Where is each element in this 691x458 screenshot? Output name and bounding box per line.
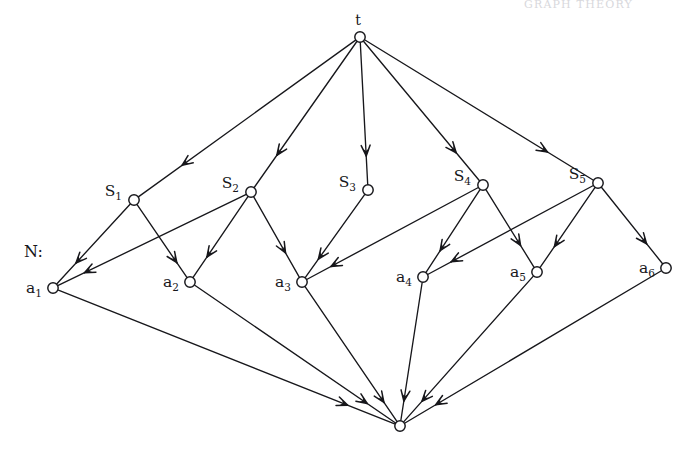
node-label-base-S1: S [105,182,116,200]
edge-t-to-S1 [139,40,356,196]
node-label-S4: S4 [454,167,472,187]
edge-S5-to-a4 [428,186,593,275]
node-label-S3: S3 [339,173,356,193]
edge-S2-to-a1 [58,195,246,286]
node-layer [48,32,671,431]
edge-S2-to-a3 [254,197,299,277]
node-sink[interactable] [395,421,405,431]
node-a4[interactable] [418,272,428,282]
node-label-base-t: t [355,12,361,28]
node-label-subscript-a3: 3 [284,281,291,293]
node-label-subscript-S5: 5 [579,173,586,185]
node-a1[interactable] [48,283,58,293]
network-caption-label: N: [24,242,43,261]
node-label-S5: S5 [569,165,586,185]
node-label-base-a1: a [26,279,35,297]
node-S2[interactable] [246,187,256,197]
edge-a6-to-sink [405,271,661,423]
node-label-subscript-a2: 2 [172,281,179,293]
node-label-base-S3: S [339,173,350,191]
node-label-a4: a4 [396,268,412,288]
node-label-a1: a1 [26,279,42,299]
node-label-base-a4: a [396,268,405,286]
edge-S5-to-a6 [602,188,663,264]
node-label-t: t [355,12,361,28]
node-label-a3: a3 [275,273,291,293]
node-label-subscript-S2: 2 [232,182,239,194]
edge-a2-to-sink [195,285,395,422]
edge-t-to-S4 [364,41,480,180]
node-label-S1: S1 [105,182,122,202]
node-label-subscript-S1: 1 [115,190,122,202]
page-header-text: GRAPH THEORY [524,0,633,11]
node-label-subscript-a5: 5 [519,271,526,283]
edge-a3-to-sink [305,287,396,421]
node-label-subscript-S4: 4 [464,175,471,187]
edge-a1-to-sink [58,290,394,424]
node-a2[interactable] [185,277,195,287]
node-a3[interactable] [297,277,307,287]
node-label-a5: a5 [510,263,526,283]
node-label-S2: S2 [222,174,239,194]
node-label-subscript-S3: 3 [349,181,356,193]
edge-a4-to-sink [401,283,422,421]
edge-S1-to-a2 [137,205,186,277]
node-S1[interactable] [129,195,139,205]
edge-t-to-S2 [254,42,356,188]
node-label-base-a5: a [510,263,519,281]
node-label-base-a6: a [639,259,648,277]
node-a5[interactable] [532,267,542,277]
node-S5[interactable] [593,178,603,188]
edge-a5-to-sink [404,276,533,421]
node-label-subscript-a6: 6 [648,267,655,279]
edge-S4-to-a3 [307,188,478,280]
edge-S2-to-a2 [193,197,248,277]
edge-S4-to-a5 [486,190,534,267]
node-label-a2: a2 [163,273,179,293]
edge-layer [57,40,662,424]
node-label-base-S2: S [222,174,233,192]
node-S4[interactable] [478,180,488,190]
node-S3[interactable] [363,185,373,195]
node-label-base-S4: S [454,167,465,185]
node-label-base-a3: a [275,273,284,291]
node-label-subscript-a1: 1 [35,287,42,299]
edge-t-to-S5 [365,40,593,180]
node-a6[interactable] [661,263,671,273]
node-label-base-S5: S [569,165,580,183]
node-label-subscript-a4: 4 [405,276,412,288]
node-label-a6: a6 [639,259,655,279]
graph-canvas: tS1S2S3S4S5a1a2a3a4a5a6N: [0,0,691,458]
edge-t-to-S3 [360,43,370,184]
node-t[interactable] [355,32,365,42]
network-flow-diagram: GRAPH THEORY tS1S2S3S4S5a1a2a3a4a5a6N: [0,0,691,458]
node-label-base-a2: a [163,273,172,291]
